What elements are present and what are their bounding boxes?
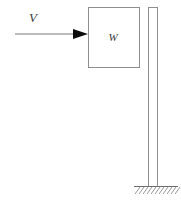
velocity-arrow-head xyxy=(73,29,88,39)
ground-hatching xyxy=(135,187,180,194)
impact-diagram: V W xyxy=(0,0,181,202)
weight-label: W xyxy=(108,31,118,43)
diagram-canvas: V W xyxy=(0,0,181,202)
velocity-label: V xyxy=(29,10,39,25)
